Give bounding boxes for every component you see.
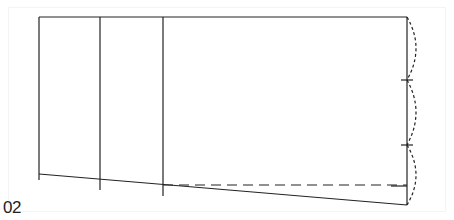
pattern-diagram — [0, 0, 454, 220]
dashed-arc-2 — [407, 80, 416, 145]
dashed-arc-3 — [407, 145, 416, 205]
dashed-arc-1 — [407, 17, 416, 80]
figure-label: 02 — [3, 198, 21, 218]
slanted-bottom-edge — [39, 174, 407, 205]
